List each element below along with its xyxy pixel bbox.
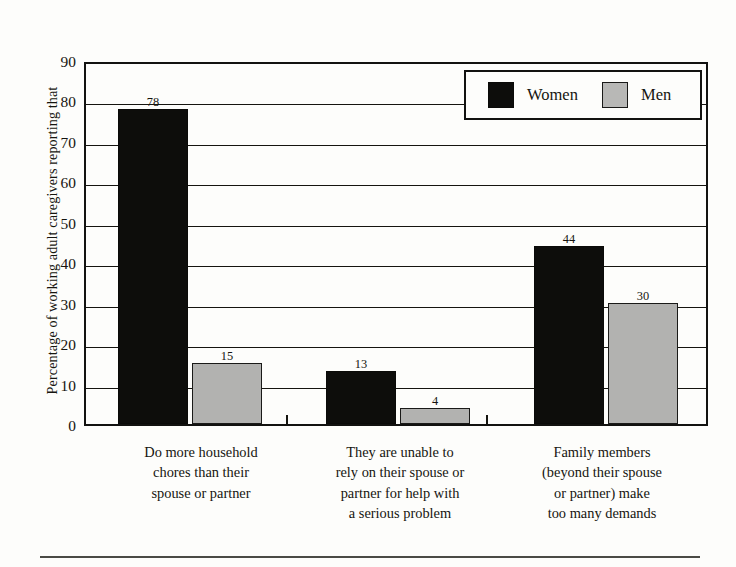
category-label-line: rely on their spouse or [288,462,512,482]
plot-area: 78 15 13 4 44 30 Women Men [84,62,708,426]
y-tick-80: 80 [30,93,76,111]
y-tick-30: 30 [30,296,76,314]
y-tick-70: 70 [30,134,76,152]
category-label-line: chores than their [86,462,316,482]
legend-entry-men: Men [602,82,671,108]
category-label-1: Do more householdchores than theirspouse… [86,442,316,503]
legend-entry-women: Women [488,82,578,108]
legend-swatch-women-icon [488,82,514,108]
bar-value-men-group1: 15 [221,349,233,364]
bar-value-men-group3: 30 [637,289,649,304]
y-tick-40: 40 [30,255,76,273]
category-label-line: too many demands [492,503,712,523]
category-label-3: Family members(beyond their spouseor par… [492,442,712,524]
legend-label-women: Women [527,85,578,105]
bar-women-group1 [118,109,188,424]
category-label-line: spouse or partner [86,483,316,503]
category-label-line: Family members [492,442,712,462]
y-tick-0: 0 [30,417,76,435]
x-tick-divider-1 [286,415,288,424]
x-tick-divider-2 [486,415,488,424]
bar-chart-figure: Percentage of working adult caregivers r… [0,0,736,567]
bar-women-group2 [326,371,396,424]
category-label-line: They are unable to [288,442,512,462]
bar-women-group3 [534,246,604,424]
y-tick-90: 90 [30,53,76,71]
bar-men-group2 [400,408,470,424]
y-tick-60: 60 [30,174,76,192]
category-label-line: Do more household [86,442,316,462]
bottom-rule-divider [40,556,700,558]
chart-legend: Women Men [464,70,702,120]
bar-value-men-group2: 4 [432,394,438,409]
category-label-2: They are unable torely on their spouse o… [288,442,512,524]
y-tick-20: 20 [30,336,76,354]
category-label-line: partner for help with [288,483,512,503]
legend-swatch-men-icon [602,82,628,108]
bar-value-women-group3: 44 [563,232,575,247]
category-label-line: a serious problem [288,503,512,523]
y-tick-50: 50 [30,215,76,233]
bar-value-women-group1: 78 [147,95,159,110]
category-label-line: or partner) make [492,483,712,503]
category-label-line: (beyond their spouse [492,462,712,482]
bar-men-group1 [192,363,262,424]
bar-value-women-group2: 13 [355,357,367,372]
y-tick-10: 10 [30,377,76,395]
legend-label-men: Men [641,85,671,105]
bar-men-group3 [608,303,678,424]
